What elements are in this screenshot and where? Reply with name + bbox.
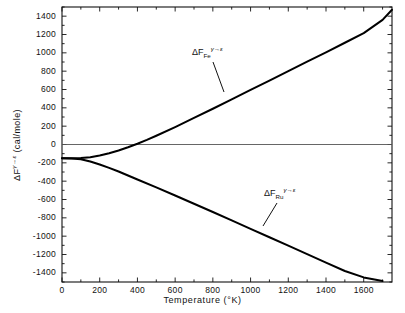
y-axis-title-base: ΔF [12, 169, 22, 181]
y-tick-label: -400 [16, 176, 56, 186]
x-tick-label: 1600 [344, 285, 384, 295]
y-tick-label: 0 [16, 139, 56, 149]
y-tick-label: 600 [16, 84, 56, 94]
x-axis-title: Temperature (°K) [0, 295, 405, 305]
fe-label-base: ΔF [192, 47, 204, 57]
ru-label-base: ΔF [264, 188, 276, 198]
x-tick-label: 1200 [268, 285, 308, 295]
y-tick-label: -1400 [16, 267, 56, 277]
x-tick-label: 0 [42, 285, 82, 295]
annotation-leader-lines [213, 62, 277, 226]
y-tick-label: -1200 [16, 249, 56, 259]
x-tick-label: 200 [80, 285, 120, 295]
x-tick-label: 1400 [306, 285, 346, 295]
y-tick-label: -200 [16, 157, 56, 167]
y-tick-label: 400 [16, 102, 56, 112]
y-axis-title-unit: (cal/mole) [12, 109, 22, 155]
ru-label-subscript: Ru [276, 193, 284, 200]
fe-curve-label: ΔFFeγ→ε [192, 47, 223, 57]
y-axis-title-superscript: γ→ε [10, 155, 17, 168]
curve-fe [62, 10, 392, 159]
fe-label-subscript: Fe [204, 52, 211, 59]
ru-label-superscript: γ→ε [283, 186, 295, 193]
y-tick-label: -800 [16, 212, 56, 222]
x-tick-label: 600 [155, 285, 195, 295]
data-curves [62, 10, 392, 281]
y-tick-label: -600 [16, 194, 56, 204]
y-axis-title: ΔFγ→ε (cal/mole) [12, 65, 22, 225]
x-tick-label: 1000 [231, 285, 271, 295]
y-tick-label: 1000 [16, 47, 56, 57]
y-tick-label: 1200 [16, 29, 56, 39]
y-tick-label: 800 [16, 66, 56, 76]
fe-label-superscript: γ→ε [211, 45, 223, 52]
figure-container: 1400120010008006004002000-200-400-600-80… [0, 0, 405, 313]
x-tick-label: 800 [193, 285, 233, 295]
ru-curve-label: ΔFRuγ→ε [264, 188, 295, 198]
y-tick-label: 200 [16, 121, 56, 131]
y-tick-label: 1400 [16, 11, 56, 21]
curve-ru [62, 158, 383, 281]
y-tick-label: -1000 [16, 231, 56, 241]
x-axis-title-text: Temperature (°K) [163, 295, 241, 305]
x-tick-label: 400 [117, 285, 157, 295]
